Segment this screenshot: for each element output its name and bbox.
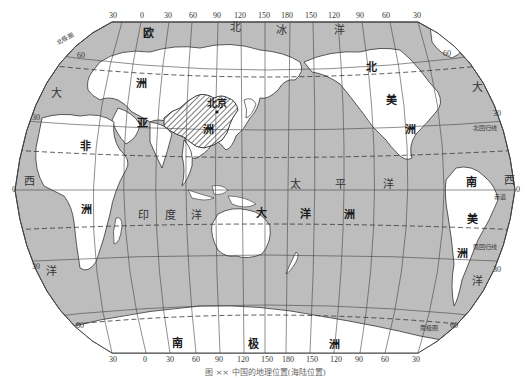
top-tick: 120 — [328, 12, 340, 20]
top-tick: 60 — [382, 12, 390, 20]
label-oceania-0: 大 — [256, 208, 267, 219]
bottom-tick: 30 — [109, 356, 117, 364]
top-tick: 60 — [189, 12, 197, 20]
top-tick: 30 — [413, 12, 421, 20]
label-equator: 赤道 — [494, 194, 506, 200]
label-africa-1: 洲 — [81, 204, 92, 215]
label-atlantic-left-1: 西 — [24, 176, 35, 187]
left-tick: 60 — [77, 52, 85, 60]
world-map: 30 0 30 60 90 120 150 180 150 120 90 60 … — [0, 0, 531, 378]
label-antarctica-0: 南 — [172, 338, 183, 349]
top-tick: 0 — [140, 12, 144, 20]
label-africa-0: 非 — [80, 141, 91, 152]
label-arctic-0: 北 — [230, 22, 241, 33]
label-indian-2: 洋 — [191, 210, 202, 221]
label-arctic-2: 洋 — [334, 25, 345, 36]
left-tick: 60 — [76, 322, 84, 330]
beijing-marker — [215, 110, 218, 113]
right-tick: 30 — [493, 110, 501, 118]
label-asia-china: 洲 — [203, 124, 214, 135]
left-tick: 30 — [32, 263, 40, 271]
label-south-america-2: 洲 — [457, 248, 468, 259]
label-asia-0: 亚 — [137, 118, 148, 129]
bottom-tick: 30 — [166, 356, 174, 364]
top-tick: 30 — [109, 12, 117, 20]
label-north-america-0: 北 — [366, 62, 377, 73]
label-pacific-0: 太 — [290, 179, 301, 190]
label-asia-1: 洲 — [136, 78, 147, 89]
top-tick: 150 — [305, 12, 317, 20]
label-atlantic-right-2: 洋 — [472, 276, 483, 287]
top-tick: 120 — [234, 12, 246, 20]
label-north-america-1: 美 — [386, 95, 397, 106]
top-tick: 30 — [164, 12, 172, 20]
label-oceania-2: 洲 — [344, 209, 355, 220]
bottom-tick: 180 — [282, 356, 294, 364]
bottom-tick: 120 — [330, 356, 342, 364]
top-tick: 90 — [356, 12, 364, 20]
label-atlantic-left-2: 洋 — [46, 266, 57, 277]
label-atlantic-right-0: 大 — [472, 82, 483, 93]
left-tick: 30 — [32, 114, 40, 122]
top-tick: 90 — [213, 12, 221, 20]
left-tick: 0 — [12, 186, 16, 194]
label-indian-0: 印 — [138, 210, 149, 221]
bottom-tick: 60 — [192, 356, 200, 364]
label-pacific-2: 洋 — [383, 179, 394, 190]
bottom-tick: 90 — [355, 356, 363, 364]
label-tropic-of-cancer: 北回归线 — [473, 125, 497, 131]
bottom-tick: 150 — [306, 356, 318, 364]
bottom-tick: 90 — [215, 356, 223, 364]
label-beijing: 北京 — [207, 99, 227, 109]
label-south-america-1: 美 — [467, 214, 478, 225]
bottom-tick: 150 — [261, 356, 273, 364]
top-tick: 150 — [258, 12, 270, 20]
bottom-tick: 0 — [143, 356, 147, 364]
bottom-tick: 60 — [381, 356, 389, 364]
label-arctic-1: 冰 — [276, 25, 287, 36]
label-antarctica-2: 洲 — [329, 339, 340, 350]
label-tropic-of-capricorn: 南回归线 — [473, 244, 497, 250]
label-antarctic-circle: 南极圈 — [420, 325, 438, 331]
label-pacific-1: 平 — [335, 179, 346, 190]
label-atlantic-left-0: 大 — [51, 88, 62, 99]
right-tick: 60 — [443, 50, 451, 58]
label-south-america-0: 南 — [466, 177, 477, 188]
right-tick: 60 — [450, 322, 458, 330]
label-europe: 欧 — [143, 28, 154, 39]
label-north-america-2: 洲 — [405, 124, 416, 135]
map-caption: 图 ×× 中国的地理位置(海陆位置) — [0, 366, 531, 377]
bottom-tick: 30 — [412, 356, 420, 364]
label-antarctica-1: 极 — [248, 339, 259, 350]
bottom-tick: 120 — [237, 356, 249, 364]
top-tick: 180 — [281, 12, 293, 20]
label-atlantic-right-1: 西 — [504, 175, 515, 186]
right-tick: 30 — [493, 266, 501, 274]
right-tick: 0 — [516, 186, 520, 194]
label-indian-1: 度 — [165, 210, 176, 221]
label-oceania-1: 洋 — [300, 209, 311, 220]
